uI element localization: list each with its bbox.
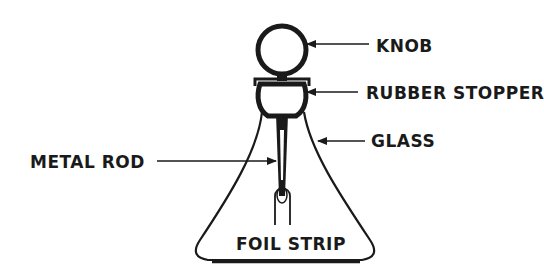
knob-neck xyxy=(277,73,287,81)
foil-strip-label: FOIL STRIP xyxy=(236,234,346,254)
rubber-stopper-label: RUBBER STOPPER xyxy=(366,83,544,103)
rubber-stopper xyxy=(258,84,306,116)
electroscope-diagram: KNOB RUBBER STOPPER GLASS METAL ROD FOIL… xyxy=(0,0,544,275)
knob xyxy=(258,26,306,74)
knob-label: KNOB xyxy=(376,36,433,56)
glass-label: GLASS xyxy=(371,131,435,151)
metal-rod-label: METAL ROD xyxy=(30,152,145,172)
